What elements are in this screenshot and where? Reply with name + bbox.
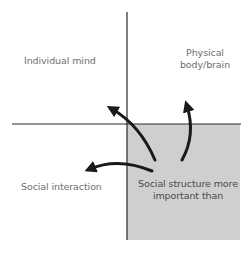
label-social-structure: Social structure more important than	[133, 178, 243, 202]
label-social-structure-line1: Social structure more	[133, 178, 243, 190]
label-social-interaction: Social interaction	[21, 181, 102, 193]
label-physical-body-brain: Physical body/brain	[172, 47, 238, 71]
label-individual-mind: Individual mind	[24, 55, 96, 67]
label-physical-line2: body/brain	[172, 59, 238, 71]
label-social-structure-line2: important than	[133, 190, 243, 202]
quadrant-diagram: Individual mind Physical body/brain Soci…	[0, 0, 251, 256]
label-physical-line1: Physical	[172, 47, 238, 59]
